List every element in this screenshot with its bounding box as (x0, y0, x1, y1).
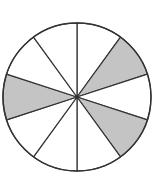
fraction-circle-diagram (0, 0, 152, 185)
center-point (75, 95, 79, 99)
